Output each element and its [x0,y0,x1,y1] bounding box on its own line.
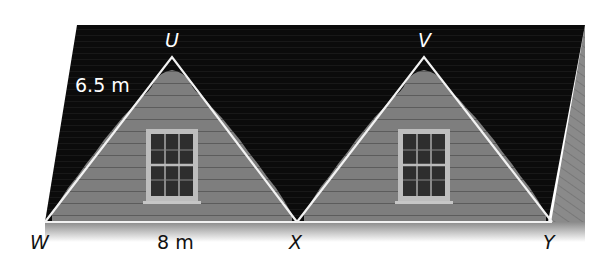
window-right [395,129,453,204]
label-point-v: V [418,31,431,50]
label-point-x: X [289,233,302,252]
measure-side-wx: 8 m [157,233,194,252]
label-point-w: W [30,233,49,252]
label-point-y: Y [543,233,555,252]
window-left [143,129,201,204]
dormer-roof-figure: U V W X Y 6.5 m 8 m [0,0,616,276]
measure-side-wu: 6.5 m [75,76,130,95]
label-point-u: U [165,31,179,50]
roof-illustration [0,0,616,276]
fade-band [45,222,585,242]
